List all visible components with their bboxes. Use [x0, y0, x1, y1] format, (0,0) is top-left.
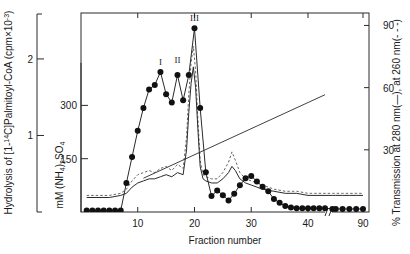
- data-point: [353, 206, 359, 212]
- data-point: [123, 180, 129, 186]
- data-point: [254, 178, 260, 184]
- data-point: [112, 207, 118, 213]
- data-point: [169, 100, 175, 106]
- data-point: [311, 205, 317, 211]
- series-ammonium-sulfate-gradient: [143, 95, 325, 179]
- inner-tick-label: 300: [60, 100, 77, 111]
- data-point: [294, 205, 300, 211]
- peak-label-ii: II: [174, 55, 180, 65]
- data-point: [277, 200, 283, 206]
- data-point: [203, 169, 209, 175]
- outer-axis-label: Hydrolysis of [1-14C]Palmitoyl-CoA (cpm×…: [3, 11, 14, 215]
- chromatography-chart: 1020304090Fraction number306090% Transmi…: [0, 0, 410, 254]
- data-point: [248, 173, 254, 179]
- data-point: [214, 188, 220, 194]
- data-point: [163, 91, 169, 97]
- x-tick-label: 20: [189, 218, 201, 229]
- data-point: [209, 193, 215, 199]
- x-tick-label: 40: [302, 218, 314, 229]
- data-point: [180, 97, 186, 103]
- data-point: [174, 72, 180, 78]
- inner-axis-label: mM (NH4)2SO4: [54, 142, 66, 209]
- data-point: [282, 203, 288, 209]
- data-point: [191, 25, 197, 31]
- data-point: [340, 206, 346, 212]
- x-tick-label: 90: [357, 218, 369, 229]
- data-point: [220, 192, 226, 198]
- data-point: [305, 205, 311, 211]
- data-point: [299, 205, 305, 211]
- data-point: [271, 196, 277, 202]
- series-hydrolysis-markers: [84, 25, 366, 213]
- data-point: [118, 207, 124, 213]
- x-axis-label: Fraction number: [189, 235, 262, 246]
- data-point: [226, 198, 232, 204]
- data-point: [197, 105, 203, 111]
- peak-label-iii: III: [190, 13, 199, 23]
- data-point: [288, 204, 294, 210]
- data-point: [360, 206, 366, 212]
- outer-tick-label: 1: [27, 130, 33, 141]
- data-point: [152, 82, 158, 88]
- outer-tick-label: 2: [27, 54, 33, 65]
- data-point: [316, 205, 322, 211]
- right-axis-label: % Transmission at 280 nm(—), at 260 nm(-…: [391, 19, 402, 226]
- data-point: [129, 154, 135, 160]
- data-point: [346, 206, 352, 212]
- data-point: [231, 191, 237, 197]
- data-point: [333, 206, 339, 212]
- data-point: [101, 207, 107, 213]
- data-point: [322, 205, 328, 211]
- data-point: [186, 72, 192, 78]
- data-point: [95, 207, 101, 213]
- data-point: [106, 207, 112, 213]
- data-point: [237, 182, 243, 188]
- peak-label-i: I: [159, 57, 162, 67]
- data-point: [89, 207, 95, 213]
- data-point: [260, 184, 266, 190]
- data-point: [243, 175, 249, 181]
- x-tick-label: 10: [132, 218, 144, 229]
- data-point: [84, 207, 90, 213]
- series-transmission-280nm: [87, 67, 363, 198]
- data-point: [157, 69, 163, 75]
- x-tick-label: 30: [246, 218, 258, 229]
- data-point: [135, 128, 141, 134]
- data-point: [140, 105, 146, 111]
- data-point: [146, 87, 152, 93]
- data-point: [265, 188, 271, 194]
- chart-figure: 1020304090Fraction number306090% Transmi…: [0, 0, 410, 254]
